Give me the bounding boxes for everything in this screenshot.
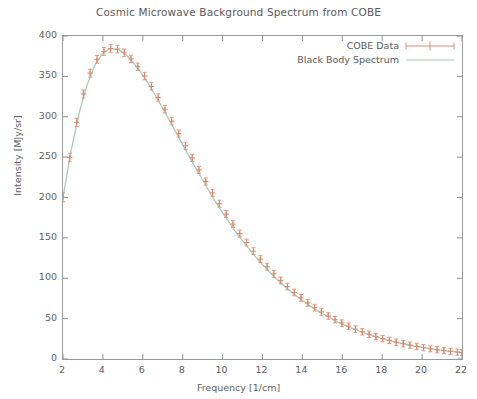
legend-item-black-body-spectrum: Black Body Spectrum (297, 54, 456, 65)
y-tick-label: 400 (11, 30, 57, 40)
plot-area: COBE Data Black Body Spectrum (62, 35, 463, 360)
plot-canvas (63, 36, 462, 359)
x-tick-label: 8 (162, 365, 202, 375)
x-tick-label: 12 (242, 365, 282, 375)
x-tick-label: 6 (122, 365, 162, 375)
y-axis-label: Intensity [MJy/sr] (12, 86, 23, 226)
x-tick-label: 18 (361, 365, 401, 375)
x-tick-label: 20 (401, 365, 441, 375)
legend-item-cobe-data: COBE Data (347, 40, 456, 51)
x-tick-label: 10 (202, 365, 242, 375)
x-tick-label: 16 (321, 365, 361, 375)
x-tick-label: 14 (281, 365, 321, 375)
y-tick-label: 150 (11, 232, 57, 242)
y-tick-label: 50 (11, 313, 57, 323)
chart-figure: Cosmic Microwave Background Spectrum fro… (0, 0, 477, 399)
series-black-body-spectrum (63, 49, 462, 353)
series-cobe-data (63, 45, 462, 356)
legend-label-black-body-spectrum: Black Body Spectrum (297, 54, 399, 65)
y-tick-label: 100 (11, 272, 57, 282)
axis-ticks (63, 36, 462, 359)
legend-key-cobe-data (404, 41, 456, 51)
legend-key-black-body-spectrum (404, 55, 456, 65)
legend-label-cobe-data: COBE Data (347, 40, 399, 51)
y-tick-label: 0 (11, 353, 57, 363)
y-tick-label: 350 (11, 70, 57, 80)
x-tick-label: 22 (441, 365, 477, 375)
x-tick-label: 4 (82, 365, 122, 375)
chart-legend: COBE Data Black Body Spectrum (297, 40, 456, 65)
chart-title: Cosmic Microwave Background Spectrum fro… (0, 6, 477, 18)
x-axis-label: Frequency [1/cm] (0, 382, 477, 393)
x-tick-label: 2 (42, 365, 82, 375)
